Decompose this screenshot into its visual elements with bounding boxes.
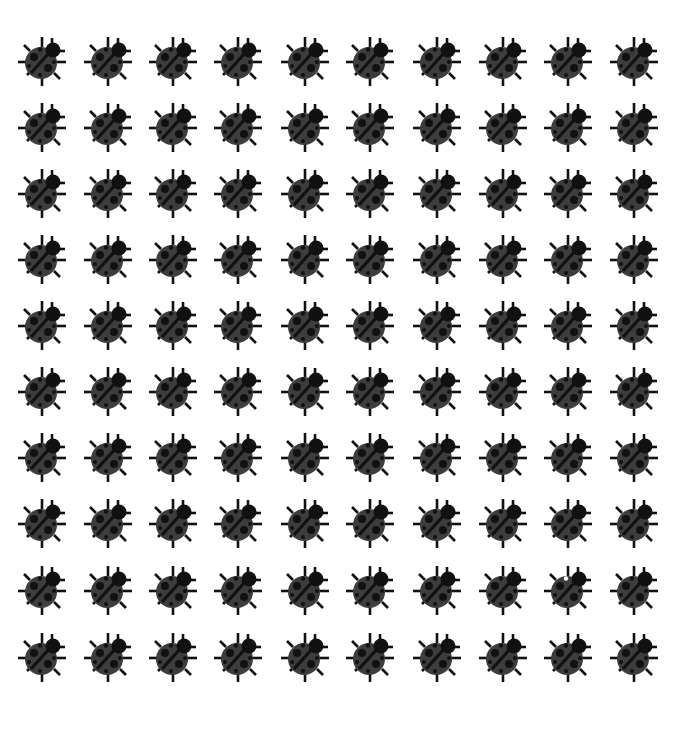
ladybug-icon[interactable] <box>212 631 264 683</box>
ladybug-icon[interactable] <box>212 233 264 285</box>
ladybug-icon[interactable] <box>147 167 199 219</box>
ladybug-icon[interactable] <box>344 299 396 351</box>
ladybug-icon[interactable] <box>411 497 463 549</box>
ladybug-icon[interactable] <box>477 631 529 683</box>
ladybug-icon[interactable] <box>82 564 134 616</box>
ladybug-icon[interactable] <box>212 167 264 219</box>
ladybug-icon[interactable] <box>82 233 134 285</box>
ladybug-icon[interactable] <box>608 365 660 417</box>
ladybug-icon[interactable] <box>16 365 68 417</box>
ladybug-icon[interactable] <box>147 233 199 285</box>
ladybug-icon[interactable] <box>411 35 463 87</box>
ladybug-icon[interactable] <box>279 101 331 153</box>
ladybug-icon[interactable] <box>411 167 463 219</box>
ladybug-icon[interactable] <box>344 233 396 285</box>
ladybug-icon[interactable] <box>279 299 331 351</box>
ladybug-icon[interactable] <box>16 167 68 219</box>
ladybug-icon[interactable] <box>16 233 68 285</box>
ladybug-icon[interactable] <box>411 233 463 285</box>
ladybug-icon[interactable] <box>542 101 594 153</box>
ladybug-icon[interactable] <box>344 564 396 616</box>
ladybug-icon[interactable] <box>16 631 68 683</box>
ladybug-icon[interactable] <box>147 101 199 153</box>
ladybug-icon[interactable] <box>608 101 660 153</box>
ladybug-icon[interactable] <box>147 431 199 483</box>
ladybug-icon[interactable] <box>82 35 134 87</box>
ladybug-icon[interactable] <box>279 564 331 616</box>
ladybug-icon[interactable] <box>147 631 199 683</box>
ladybug-icon[interactable] <box>344 365 396 417</box>
ladybug-icon[interactable] <box>279 497 331 549</box>
ladybug-icon[interactable] <box>411 431 463 483</box>
ladybug-icon[interactable] <box>147 497 199 549</box>
ladybug-icon[interactable] <box>608 299 660 351</box>
ladybug-icon[interactable] <box>477 299 529 351</box>
ladybug-icon[interactable] <box>542 299 594 351</box>
ladybug-icon[interactable] <box>477 365 529 417</box>
ladybug-icon[interactable] <box>147 365 199 417</box>
ladybug-icon[interactable] <box>212 299 264 351</box>
ladybug-icon[interactable] <box>16 35 68 87</box>
ladybug-icon[interactable] <box>344 431 396 483</box>
ladybug-icon[interactable] <box>411 101 463 153</box>
ladybug-icon[interactable] <box>82 299 134 351</box>
ladybug-icon[interactable] <box>212 101 264 153</box>
ladybug-icon[interactable] <box>477 233 529 285</box>
ladybug-icon[interactable] <box>82 497 134 549</box>
ladybug-icon[interactable] <box>212 564 264 616</box>
ladybug-icon[interactable] <box>279 431 331 483</box>
ladybug-icon[interactable] <box>608 431 660 483</box>
ladybug-icon[interactable] <box>212 497 264 549</box>
ladybug-icon[interactable] <box>542 35 594 87</box>
ladybug-icon[interactable] <box>411 631 463 683</box>
ladybug-icon[interactable] <box>147 564 199 616</box>
ladybug-icon[interactable] <box>82 631 134 683</box>
ladybug-icon[interactable] <box>16 497 68 549</box>
ladybug-icon[interactable] <box>542 431 594 483</box>
ladybug-icon[interactable] <box>212 365 264 417</box>
ladybug-icon[interactable] <box>16 431 68 483</box>
ladybug-icon[interactable] <box>477 101 529 153</box>
ladybug-icon[interactable] <box>279 167 331 219</box>
ladybug-icon[interactable] <box>279 35 331 87</box>
ladybug-icon[interactable] <box>477 167 529 219</box>
ladybug-icon[interactable] <box>16 564 68 616</box>
ladybug-icon[interactable] <box>212 35 264 87</box>
ladybug-icon[interactable] <box>279 631 331 683</box>
ladybug-icon[interactable] <box>608 564 660 616</box>
ladybug-icon[interactable] <box>147 299 199 351</box>
ladybug-icon[interactable] <box>542 497 594 549</box>
ladybug-icon[interactable] <box>16 299 68 351</box>
ladybug-icon[interactable] <box>82 431 134 483</box>
ladybug-icon[interactable] <box>82 365 134 417</box>
ladybug-icon[interactable] <box>147 35 199 87</box>
ladybug-icon[interactable] <box>477 431 529 483</box>
ladybug-icon[interactable] <box>279 365 331 417</box>
ladybug-icon[interactable] <box>608 167 660 219</box>
ladybug-icon[interactable] <box>279 233 331 285</box>
ladybug-icon[interactable] <box>608 233 660 285</box>
ladybug-icon[interactable] <box>411 299 463 351</box>
ladybug-icon[interactable] <box>542 365 594 417</box>
ladybug-icon[interactable] <box>344 167 396 219</box>
ladybug-icon[interactable] <box>477 564 529 616</box>
ladybug-icon[interactable] <box>16 101 68 153</box>
ladybug-icon[interactable] <box>542 233 594 285</box>
ladybug-icon[interactable] <box>608 497 660 549</box>
ladybug-icon[interactable] <box>542 167 594 219</box>
ladybug-icon[interactable] <box>212 431 264 483</box>
ladybug-icon[interactable] <box>542 631 594 683</box>
ladybug-icon[interactable] <box>608 35 660 87</box>
ladybug-icon[interactable] <box>344 35 396 87</box>
ladybug-icon[interactable] <box>82 167 134 219</box>
ladybug-icon[interactable] <box>344 497 396 549</box>
ladybug-icon[interactable] <box>477 497 529 549</box>
ladybug-icon[interactable] <box>344 101 396 153</box>
ladybug-icon[interactable] <box>411 365 463 417</box>
ladybug-icon[interactable] <box>608 631 660 683</box>
ladybug-icon-odd[interactable] <box>542 564 594 616</box>
ladybug-icon[interactable] <box>411 564 463 616</box>
ladybug-icon[interactable] <box>477 35 529 87</box>
ladybug-icon[interactable] <box>344 631 396 683</box>
ladybug-icon[interactable] <box>82 101 134 153</box>
